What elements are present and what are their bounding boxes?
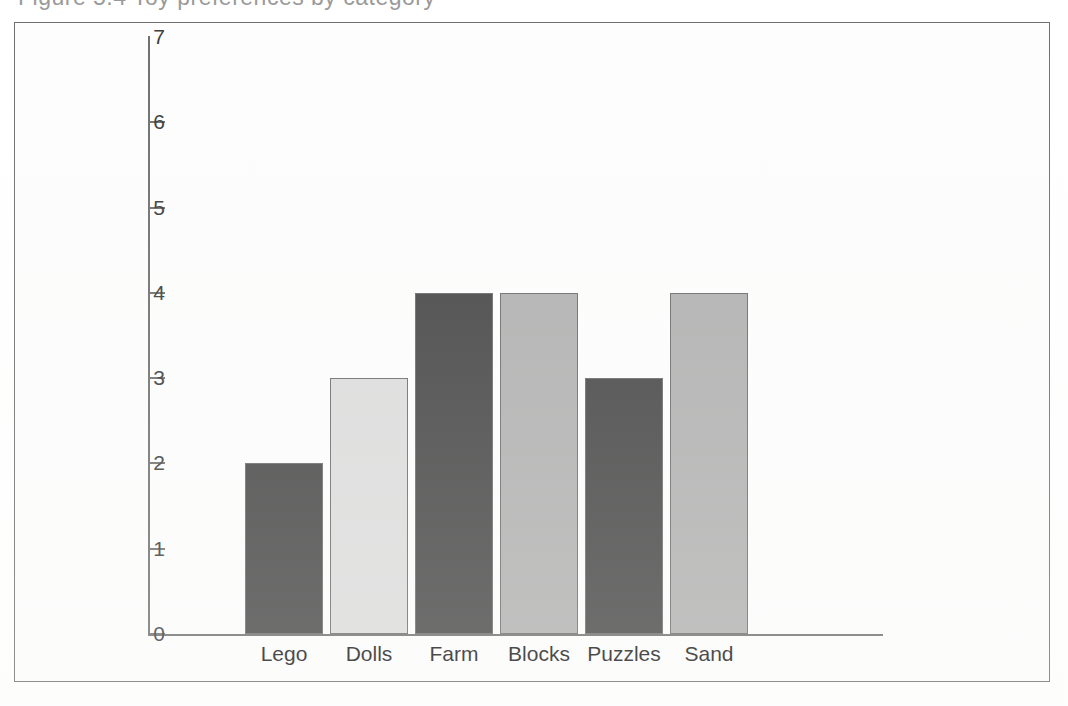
bar-puzzles xyxy=(585,378,663,634)
bar-blocks xyxy=(500,293,578,634)
figure-caption-sliver: Figure 5.4 Toy preferences by category xyxy=(0,0,1068,14)
x-axis-label-blocks: Blocks xyxy=(500,643,578,664)
chart-plot-area: 01234567 LegoDollsFarmBlocksPuzzlesSand xyxy=(15,23,1051,683)
figure-frame: 01234567 LegoDollsFarmBlocksPuzzlesSand xyxy=(14,22,1050,682)
x-axis-label-puzzles: Puzzles xyxy=(585,643,663,664)
x-axis-label-dolls: Dolls xyxy=(330,643,408,664)
x-axis-label-farm: Farm xyxy=(415,643,493,664)
x-axis-label-sand: Sand xyxy=(670,643,748,664)
figure-caption-text: Figure 5.4 Toy preferences by category xyxy=(18,0,435,11)
bar-lego xyxy=(245,463,323,634)
bar-sand xyxy=(670,293,748,634)
bar-dolls xyxy=(330,378,408,634)
bar-farm xyxy=(415,293,493,634)
bars-layer xyxy=(15,23,1051,683)
x-axis-label-lego: Lego xyxy=(245,643,323,664)
